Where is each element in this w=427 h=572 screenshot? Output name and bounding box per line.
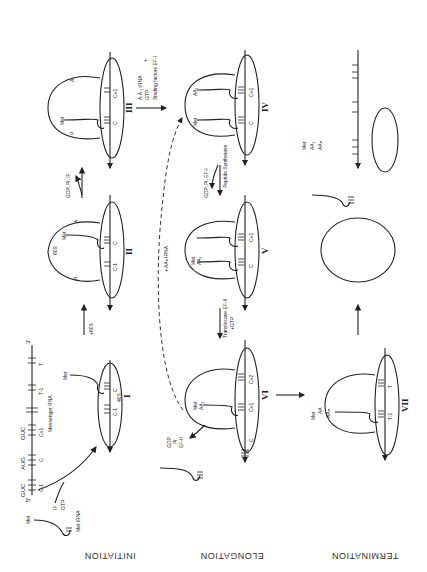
svg-text:Met: Met <box>301 141 307 150</box>
svg-text:VII: VII <box>400 398 410 412</box>
svg-text:IV: IV <box>260 101 270 112</box>
initiation-factor-arrow: IF GTP <box>38 447 96 510</box>
free-large-subunit-ellipse <box>372 108 398 172</box>
svg-text:AA₁: AA₁ <box>192 87 198 96</box>
svg-text:IF: IF <box>52 506 58 510</box>
ribosome-step-VII: Met AA AAₙ T-1 T VII <box>310 348 410 460</box>
svg-text:GUC: GUC <box>20 426 26 440</box>
svg-text:C: C <box>248 264 254 268</box>
svg-text:+GTP: +GTP <box>229 316 235 330</box>
svg-text:Messenger RNA: Messenger RNA <box>47 395 53 432</box>
svg-text:C: C <box>248 121 254 125</box>
svg-text:AA₁: AA₁ <box>198 401 204 410</box>
section-label-initiation: INITIATION <box>84 551 135 561</box>
svg-text:AA₁: AA₁ <box>309 141 315 150</box>
svg-text:+60S: +60S <box>88 323 94 335</box>
svg-text:Met: Met <box>25 515 31 524</box>
met-trna: Met Met tRNA <box>25 510 81 536</box>
svg-text:T: T <box>38 363 44 366</box>
svg-text:5': 5' <box>25 498 31 502</box>
svg-text:C: C <box>112 121 118 125</box>
svg-text:Met: Met <box>310 411 316 420</box>
section-label-termination: TERMINATION <box>332 551 399 561</box>
svg-text:AAₙ: AAₙ <box>325 409 331 418</box>
svg-text:TERMINATION: TERMINATION <box>332 551 399 561</box>
ribosome-step-V: Met AA₁ C C+1 V <box>185 195 270 310</box>
svg-text:AUG: AUG <box>20 457 26 470</box>
svg-text:A.A.₁ tRNA: A.A.₁ tRNA <box>137 75 143 100</box>
svg-text:V: V <box>260 247 270 254</box>
svg-text:AA: AA <box>317 407 323 414</box>
svg-text:60S: 60S <box>52 245 58 255</box>
ribosome-step-I: Met C-1 C 40S I <box>62 360 132 452</box>
svg-text:GTP: GTP <box>144 89 150 100</box>
svg-text:+ AAₙ tRNA: + AAₙ tRNA <box>163 245 169 272</box>
svg-text:T-1: T-1 <box>38 388 44 395</box>
protein-synthesis-diagram: INITIATION ELONGATION TERMINATION 5' 3' … <box>0 0 427 572</box>
svg-text:C+1: C+1 <box>248 232 254 242</box>
svg-text:C-1: C-1 <box>112 408 118 416</box>
released-trna <box>160 468 203 481</box>
svg-text:VI: VI <box>260 390 270 400</box>
svg-text:ELONGATION: ELONGATION <box>200 551 263 561</box>
svg-text:C+2: C+2 <box>248 374 254 384</box>
svg-text:C+1: C+1 <box>248 402 254 412</box>
svg-text:+: + <box>142 59 148 62</box>
svg-text:Met tRNA: Met tRNA <box>75 510 81 532</box>
svg-text:C+1: C+1 <box>112 88 118 98</box>
section-label-elongation: ELONGATION <box>200 551 263 561</box>
svg-text:GTP: GTP <box>60 499 66 510</box>
svg-text:Translocase EF-II: Translocase EF-II <box>222 299 228 338</box>
svg-text:Met: Met <box>59 116 65 125</box>
arrow-IV-to-V: GDP, Pi, EF-I Peptide Synthetase <box>203 144 228 198</box>
svg-text:II: II <box>124 247 134 255</box>
free-small-subunit-circle <box>321 218 395 282</box>
svg-text:GUC: GUC <box>20 483 26 497</box>
arrow-III-to-IV: A.A.₁ tRNA GTP + Binding factors EF-I <box>136 56 166 108</box>
released-mrna <box>352 50 358 168</box>
svg-text:P: P <box>69 131 75 135</box>
svg-text:P: P <box>73 276 79 280</box>
arrow-I-to-II: +60S <box>84 305 94 335</box>
ribosome-step-VI: Met AA₁ C C+1 C+2 VI <box>185 340 270 462</box>
svg-text:INITIATION: INITIATION <box>84 551 135 561</box>
svg-text:3': 3' <box>25 340 31 344</box>
ribosome-step-II: 60S Met A P C-1 C II <box>48 195 134 310</box>
svg-text:T-1: T-1 <box>387 413 393 420</box>
arrow-II-to-III: GDP, Pi, IF <box>65 168 82 198</box>
ribosome-step-III: Met A P C C+1 III <box>48 52 134 168</box>
elongation-cycle-loop: + AAₙ tRNA <box>158 118 183 410</box>
svg-text:C+1: C+1 <box>248 87 254 97</box>
released-trna-termination <box>312 195 354 207</box>
svg-text:Met: Met <box>192 117 198 126</box>
svg-text:Peptide Synthetase: Peptide Synthetase <box>222 144 228 188</box>
svg-text:Met: Met <box>62 371 68 380</box>
svg-text:C+1: C+1 <box>38 427 44 437</box>
svg-text:I: I <box>122 394 132 398</box>
svg-text:GDP, Pi, EF-I: GDP, Pi, EF-I <box>203 168 209 198</box>
svg-text:C-1: C-1 <box>112 263 118 271</box>
svg-text:C: C <box>38 458 44 462</box>
svg-text:EF-II: EF-II <box>178 437 184 448</box>
svg-text:III: III <box>124 102 134 113</box>
svg-text:A: A <box>73 219 79 223</box>
svg-text:T: T <box>387 385 393 388</box>
arrow-V-to-VI: Translocase EF-II +GTP <box>220 299 235 338</box>
svg-text:C: C <box>112 241 118 245</box>
svg-text:C: C <box>112 388 118 392</box>
svg-text:C: C <box>248 438 254 442</box>
released-peptide-chain: Met AA₁ AAₙ <box>301 141 323 150</box>
svg-text:AAₙ: AAₙ <box>317 141 323 150</box>
svg-text:AA₁: AA₁ <box>196 256 202 265</box>
svg-text:GDP, Pi, IF: GDP, Pi, IF <box>65 173 71 198</box>
svg-text:Binding factors EF-I: Binding factors EF-I <box>152 56 158 100</box>
release-VI: GDP Pi EF-II <box>166 425 205 448</box>
svg-text:Met: Met <box>61 231 67 240</box>
messenger-rna-strand: 5' 3' GUC AUG GUC C-1 C C+1 T-1 T Messen… <box>20 340 53 502</box>
